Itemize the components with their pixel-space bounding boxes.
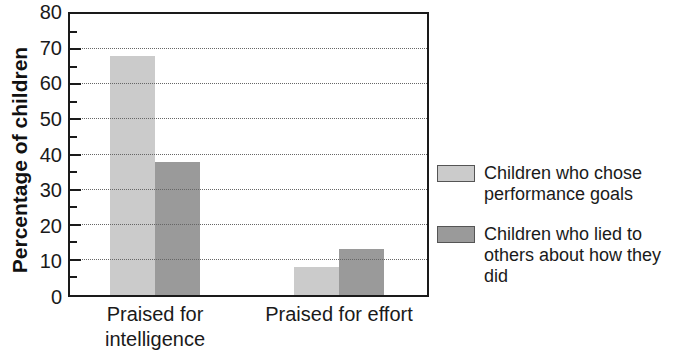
gridline-60 (70, 83, 427, 84)
minor-tick-75 (70, 31, 77, 33)
y-tick-label-0: 0 (0, 285, 62, 309)
gridline-40 (70, 154, 427, 155)
major-tick-40 (70, 154, 81, 156)
minor-tick-5 (70, 276, 77, 278)
bar-dark-effort (339, 249, 384, 295)
minor-tick-25 (70, 206, 77, 208)
y-tick-label-70: 70 (0, 36, 62, 60)
y-tick-label-30: 30 (0, 178, 62, 202)
x-category-label-intelligence: Praised for intelligence (80, 302, 230, 352)
major-tick-20 (70, 224, 81, 226)
gridline-50 (70, 118, 427, 119)
legend-entry-performance-goals: Children who chose performance goals (437, 163, 672, 205)
x-category-label-effort: Praised for effort (264, 302, 414, 327)
major-tick-70 (70, 48, 81, 50)
minor-tick-45 (70, 136, 77, 138)
minor-tick-65 (70, 66, 77, 68)
bar-dark-intelligence (155, 162, 200, 295)
legend-label-lied-to-others: Children who lied to others about how th… (484, 224, 672, 287)
gridline-70 (70, 48, 427, 49)
y-tick-label-80: 80 (0, 0, 62, 24)
major-tick-60 (70, 83, 81, 85)
bar-chart-figure: Percentage of children 01020304050607080… (0, 0, 675, 355)
legend-swatch-light-gray-icon (437, 165, 475, 182)
y-axis-tick-labels: 01020304050607080 (0, 12, 62, 297)
minor-tick-55 (70, 101, 77, 103)
gridline-20 (70, 224, 427, 225)
plot-area (68, 12, 429, 297)
y-tick-label-50: 50 (0, 107, 62, 131)
major-tick-30 (70, 189, 81, 191)
legend: Children who chose performance goals Chi… (437, 163, 672, 287)
bar-light-effort (294, 267, 339, 295)
y-tick-label-20: 20 (0, 214, 62, 238)
minor-tick-15 (70, 241, 77, 243)
y-tick-label-10: 10 (0, 249, 62, 273)
minor-tick-35 (70, 171, 77, 173)
y-tick-label-60: 60 (0, 71, 62, 95)
legend-entry-lied-to-others: Children who lied to others about how th… (437, 224, 672, 287)
gridline-10 (70, 259, 427, 260)
legend-label-performance-goals: Children who chose performance goals (484, 163, 672, 205)
gridline-30 (70, 189, 427, 190)
y-tick-label-40: 40 (0, 143, 62, 167)
legend-swatch-dark-gray-icon (437, 226, 475, 243)
major-tick-10 (70, 259, 81, 261)
major-tick-50 (70, 118, 81, 120)
